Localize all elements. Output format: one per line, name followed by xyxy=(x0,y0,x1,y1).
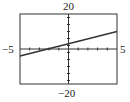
plot-area xyxy=(0,0,130,102)
